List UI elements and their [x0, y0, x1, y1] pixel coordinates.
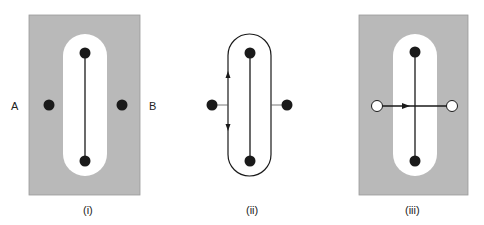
- top-charge-dot: [245, 48, 256, 59]
- caption-i: (i): [83, 204, 93, 216]
- right-charge-dot: [117, 100, 128, 111]
- label-a: A: [11, 100, 19, 112]
- arrow-up-icon: [226, 71, 231, 78]
- top-charge-dot: [410, 47, 421, 58]
- panel-iii: (iii): [359, 15, 468, 216]
- top-charge-dot: [80, 48, 91, 59]
- bottom-charge-dot: [245, 156, 256, 167]
- arrow-down-icon: [226, 124, 231, 131]
- bottom-charge-dot: [80, 156, 91, 167]
- panel-i: A B (i): [11, 15, 156, 216]
- left-charge-dot: [207, 100, 218, 111]
- bottom-charge-dot: [410, 156, 421, 167]
- right-charge-dot: [282, 100, 293, 111]
- left-charge-dot: [44, 100, 55, 111]
- panel-ii: (ii): [207, 34, 293, 216]
- right-open-circle: [447, 101, 458, 112]
- left-open-circle: [372, 101, 383, 112]
- caption-ii: (ii): [246, 204, 258, 216]
- caption-iii: (iii): [405, 204, 420, 216]
- diagram-canvas: A B (i) (ii) (iii): [0, 0, 484, 225]
- label-b: B: [149, 100, 156, 112]
